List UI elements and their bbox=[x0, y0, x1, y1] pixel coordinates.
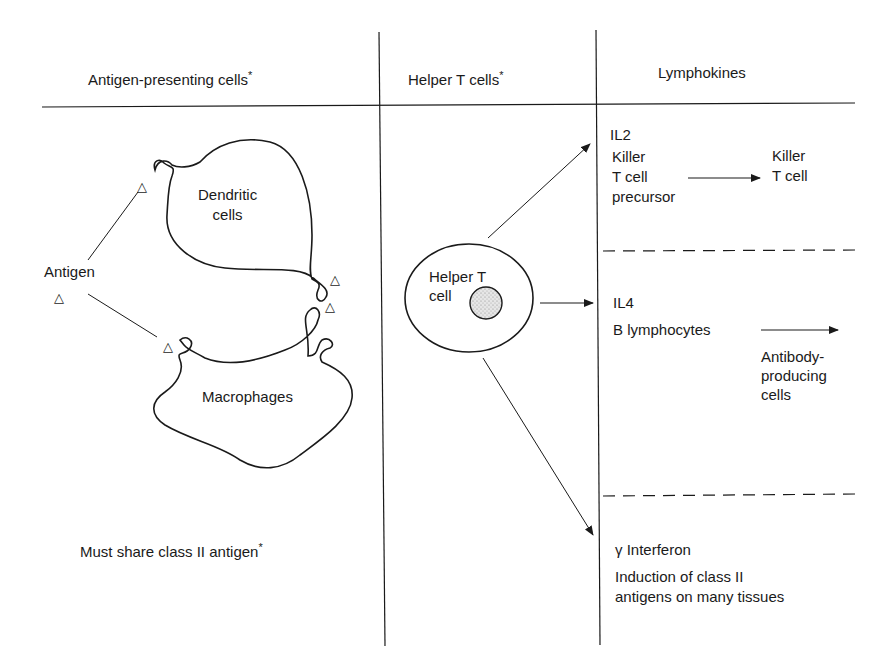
footnote-mark: * bbox=[248, 69, 252, 81]
column-divider-1 bbox=[379, 32, 385, 646]
header-antigen-presenting-cells: Antigen-presenting cells* bbox=[88, 65, 252, 90]
arrow-to-il2 bbox=[488, 144, 590, 238]
antigen-icon: △ bbox=[325, 297, 335, 317]
dendritic-cells-label: Dendritic cells bbox=[198, 185, 257, 225]
gamma-interferon-label: γ Interferon bbox=[615, 540, 691, 560]
separator-il4-ifn bbox=[603, 494, 858, 496]
il4-label: IL4 bbox=[613, 293, 634, 313]
footnote-text: Must share class II antigen bbox=[80, 543, 258, 560]
antigen-icon: △ bbox=[54, 288, 64, 308]
antigen-to-dendritic-line bbox=[88, 192, 138, 260]
header-divider bbox=[42, 103, 855, 107]
antigen-to-macrophage-line bbox=[88, 294, 157, 337]
separator-il2-il4 bbox=[603, 250, 856, 251]
header-lymphokines: Lymphokines bbox=[658, 63, 746, 83]
macrophages-label: Macrophages bbox=[202, 387, 293, 407]
antigen-icon: △ bbox=[163, 337, 173, 357]
arrow-to-interferon bbox=[483, 358, 593, 535]
header-label: Helper T cells bbox=[408, 71, 499, 88]
killer-t-precursor-label: Killer T cell precursor bbox=[612, 147, 675, 207]
interferon-effect-label: Induction of class II antigens on many t… bbox=[615, 567, 784, 607]
header-label: Antigen-presenting cells bbox=[88, 71, 248, 88]
footnote-mark: * bbox=[499, 69, 503, 81]
header-helper-t-cells: Helper T cells* bbox=[408, 65, 503, 90]
apc-footnote: Must share class II antigen* bbox=[80, 537, 263, 562]
footnote-mark: * bbox=[258, 541, 262, 553]
b-lymphocytes-label: B lymphocytes bbox=[613, 320, 711, 340]
killer-t-cell-label: Killer T cell bbox=[772, 146, 808, 186]
antigen-icon: △ bbox=[137, 177, 147, 197]
column-divider-2 bbox=[596, 30, 600, 645]
helper-t-cell-label: Helper T cell bbox=[429, 267, 486, 305]
antigen-icon: △ bbox=[330, 270, 340, 290]
antibody-producing-cells-label: Antibody- producing cells bbox=[761, 347, 827, 404]
il2-label: IL2 bbox=[610, 125, 631, 145]
antigen-label: Antigen bbox=[44, 262, 95, 282]
